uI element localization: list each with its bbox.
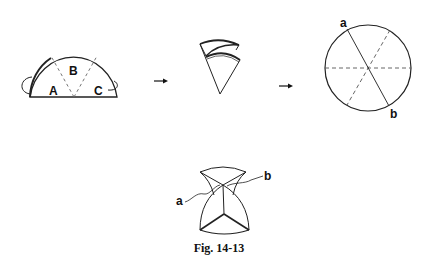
- arrow-right-icon: [279, 84, 293, 89]
- top-arc: [200, 167, 246, 172]
- label-C: C: [94, 84, 103, 98]
- leader-b: [227, 176, 263, 186]
- solid-line-ab: [347, 29, 389, 106]
- semicircle-thick-arc: [30, 58, 51, 97]
- label-a-circle: a: [340, 16, 347, 30]
- label-A: A: [49, 84, 58, 98]
- label-B: B: [69, 64, 78, 78]
- label-a-assembled: a: [176, 194, 183, 208]
- bottom-arc: [200, 230, 249, 234]
- cone-figure: [200, 40, 240, 94]
- label-b-assembled: b: [264, 169, 271, 183]
- label-b-circle: b: [390, 107, 397, 121]
- diagram-canvas: A B C a b: [0, 0, 432, 261]
- cone-right-edge: [220, 60, 240, 94]
- circle-figure: [325, 25, 411, 111]
- leader-a: [185, 185, 220, 202]
- assembled-figure: [185, 167, 263, 234]
- arrow-right-icon: [154, 79, 168, 84]
- figure-caption: Fig. 14-13: [194, 241, 245, 255]
- figure-14-13: A B C a b: [0, 0, 432, 261]
